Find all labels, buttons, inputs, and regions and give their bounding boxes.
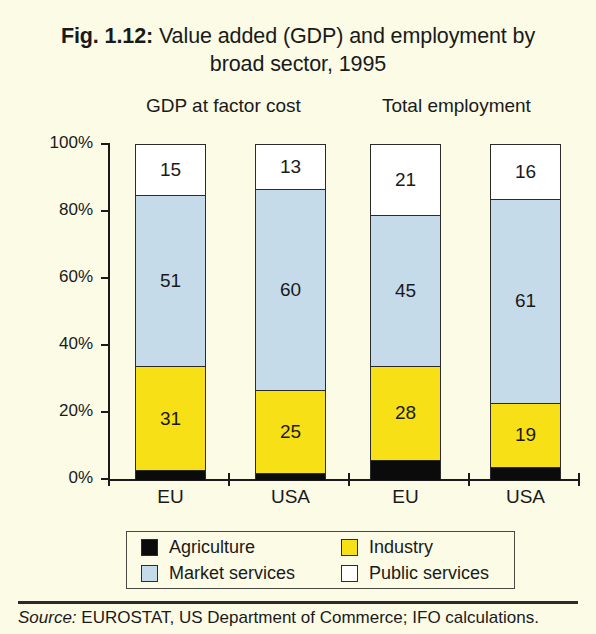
bar-segment: 21 — [371, 145, 440, 215]
y-axis-labels: 0%20%40%60%80%100% — [33, 0, 93, 500]
bar-segment: 15 — [136, 145, 205, 195]
x-axis-label: USA — [481, 486, 571, 508]
bar-segment: 61 — [491, 199, 560, 403]
bar-segment-value: 51 — [160, 270, 181, 292]
bar-segment: 45 — [371, 215, 440, 366]
legend-item[interactable]: Market services — [141, 563, 341, 584]
x-axis-tick-mark — [578, 473, 580, 486]
y-axis-tick-mark — [101, 344, 110, 346]
bar-segment-value: 25 — [280, 421, 301, 443]
legend-item[interactable]: Agriculture — [141, 537, 341, 558]
bar-segment — [256, 473, 325, 480]
bar-segment-value: 21 — [395, 169, 416, 191]
source-divider — [18, 601, 578, 604]
bar-segment — [371, 460, 440, 480]
legend-color-swatch — [141, 565, 158, 582]
legend-label: Market services — [169, 563, 295, 584]
x-axis-label: EU — [126, 486, 216, 508]
bar-segment-value: 13 — [280, 156, 301, 178]
bar-segment-value: 15 — [160, 159, 181, 181]
bar-segment-value: 16 — [515, 161, 536, 183]
bar-segment-value: 31 — [160, 408, 181, 430]
stacked-bar: 166119 — [490, 144, 561, 479]
y-axis-tick-mark — [101, 143, 110, 145]
y-axis-tick-mark — [101, 210, 110, 212]
y-axis-tick-mark — [101, 277, 110, 279]
chart-plot-area: 0%20%40%60%80%100% 155131136025214528166… — [0, 0, 596, 500]
bar-segment-value: 60 — [280, 279, 301, 301]
bar-segment-value: 28 — [395, 402, 416, 424]
y-axis-tick-label: 60% — [33, 267, 93, 287]
bar-segment: 16 — [491, 145, 560, 199]
legend-item[interactable]: Industry — [341, 537, 530, 558]
bar-segment: 25 — [256, 390, 325, 474]
legend-color-swatch — [141, 539, 158, 556]
bar-segment: 13 — [256, 145, 325, 189]
stacked-bar: 214528 — [370, 144, 441, 479]
bar-segment-value: 45 — [395, 280, 416, 302]
source-text: EUROSTAT, US Department of Commerce; IFO… — [77, 608, 539, 627]
x-axis-tick-mark — [348, 473, 350, 486]
bar-segment: 51 — [136, 195, 205, 366]
stacked-bar: 155131 — [135, 144, 206, 479]
x-axis-tick-mark — [228, 473, 230, 486]
y-axis-tick-mark — [101, 411, 110, 413]
bar-segment — [136, 470, 205, 480]
source-note: Source: EUROSTAT, US Department of Comme… — [18, 608, 539, 628]
legend-color-swatch — [341, 565, 358, 582]
bar-segment: 19 — [491, 403, 560, 467]
x-axis-tick-mark — [108, 473, 110, 486]
legend-label: Industry — [369, 537, 433, 558]
bar-segment-value: 19 — [515, 424, 536, 446]
x-axis-tick-mark — [468, 473, 470, 486]
legend-color-swatch — [341, 539, 358, 556]
y-axis-tick-label: 40% — [33, 334, 93, 354]
bar-segment-value: 61 — [515, 290, 536, 312]
y-axis-line — [108, 144, 110, 480]
stacked-bar: 136025 — [255, 144, 326, 479]
y-axis-tick-label: 100% — [33, 133, 93, 153]
bar-segment: 31 — [136, 366, 205, 470]
bar-segment: 60 — [256, 189, 325, 390]
y-axis-tick-label: 80% — [33, 200, 93, 220]
chart-legend: AgricultureIndustryMarket servicesPublic… — [126, 531, 515, 589]
legend-label: Agriculture — [169, 537, 255, 558]
legend-label: Public services — [369, 563, 489, 584]
x-axis-label: USA — [246, 486, 336, 508]
y-axis-tick-label: 0% — [33, 468, 93, 488]
source-label: Source: — [18, 608, 77, 627]
y-axis-tick-label: 20% — [33, 401, 93, 421]
bar-segment: 28 — [371, 366, 440, 460]
legend-item[interactable]: Public services — [341, 563, 530, 584]
x-axis-label: EU — [361, 486, 451, 508]
bar-segment — [491, 467, 560, 480]
